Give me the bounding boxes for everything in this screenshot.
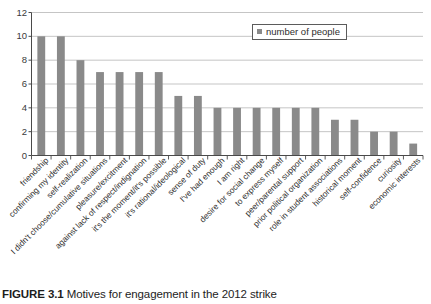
legend-swatch-icon (257, 29, 262, 34)
y-axis-tick-label: 12 (5, 8, 27, 18)
chart-legend: number of people (252, 24, 347, 40)
y-axis-tick-label: 10 (5, 31, 27, 41)
legend-label: number of people (266, 27, 340, 37)
figure-page: 024681012 number of people friendshipcon… (0, 0, 431, 304)
figure-caption-number: FIGURE 3.1 (2, 288, 64, 300)
y-axis-tick-label: 2 (5, 127, 27, 137)
y-axis-tick-label: 4 (5, 103, 27, 113)
bar-series (37, 36, 417, 155)
bar-chart: 024681012 number of people friendshipcon… (0, 0, 431, 285)
y-axis-tick-labels: 024681012 (0, 0, 27, 160)
gridlines (32, 13, 424, 132)
figure-caption: FIGURE 3.1 Motives for engagement in the… (2, 288, 431, 300)
y-axis-tick-label: 6 (5, 79, 27, 89)
x-axis-category-labels: friendshipconfirming my identityself-rea… (0, 156, 431, 284)
figure-caption-text: Motives for engagement in the 2012 strik… (67, 288, 277, 300)
y-axis-tick-label: 8 (5, 55, 27, 65)
